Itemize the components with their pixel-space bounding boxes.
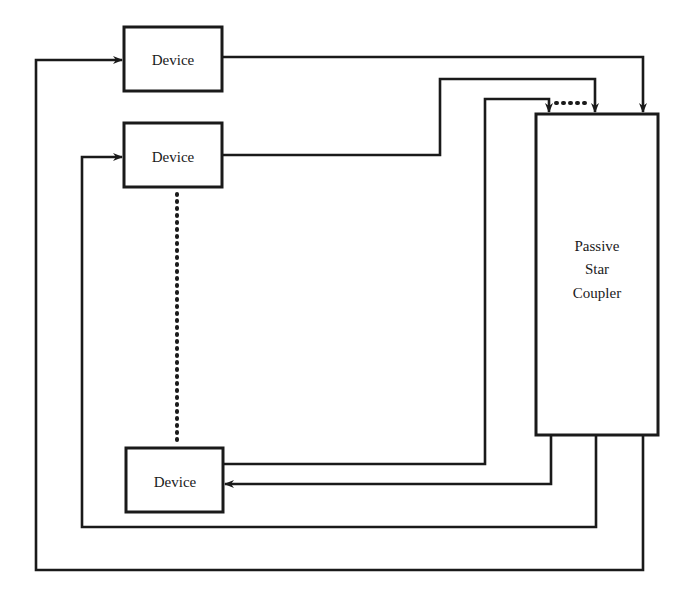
device-label: Device — [152, 149, 195, 165]
device-label: Device — [152, 52, 195, 68]
device-box-n: Device — [126, 448, 223, 512]
coupler-label-line-2: Star — [585, 261, 609, 277]
passive-star-coupler-box: Passive Star Coupler — [536, 114, 658, 435]
device-box-2: Device — [124, 123, 222, 187]
coupler-label-line-1: Passive — [575, 238, 620, 254]
star-coupler-diagram: Device Device Device Passive Star Couple… — [0, 0, 684, 599]
device-box-1: Device — [124, 27, 222, 91]
device-label: Device — [154, 474, 197, 490]
connection-coupler-to-device-n — [225, 435, 551, 484]
coupler-label-line-3: Coupler — [573, 285, 621, 301]
